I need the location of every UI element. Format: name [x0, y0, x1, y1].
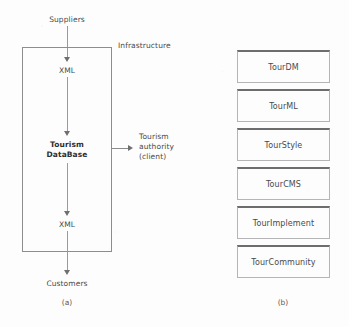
stack-box-tourml[interactable]: TourML [237, 89, 330, 122]
tour-component-stack: TourDM TourML TourStyle TourCMS TourImpl… [237, 50, 330, 284]
flow-line-database-to-client [112, 148, 129, 149]
customers-label: Customers [37, 279, 97, 289]
node-xml-top: XML [47, 66, 87, 76]
flow-line-xml-to-database [67, 77, 68, 133]
arrowhead-down-to-database [64, 131, 70, 136]
stack-box-label: TourCMS [266, 180, 301, 189]
client-label-line2: authority [139, 142, 174, 152]
stack-box-label: TourImplement [253, 219, 314, 228]
suppliers-label: Suppliers [37, 15, 97, 25]
caption-panel-b: (b) [263, 298, 303, 307]
flow-line-xml-to-customers [67, 231, 68, 272]
stack-box-label: TourML [269, 102, 298, 111]
client-label-line3: (client) [139, 152, 166, 162]
node-tourism-database-line2: DataBase [37, 150, 97, 160]
client-label-line1: Tourism [139, 132, 169, 142]
caption-panel-a: (a) [47, 298, 87, 307]
stack-box-label: TourStyle [265, 141, 303, 150]
arrowhead-right-to-client [128, 145, 133, 151]
stack-box-tourcms[interactable]: TourCMS [237, 167, 330, 200]
arrowhead-down-to-customers [64, 270, 70, 275]
stack-box-tourimplement[interactable]: TourImplement [237, 206, 330, 239]
stack-box-tourdm[interactable]: TourDM [237, 50, 330, 83]
arrowhead-down-to-xml-bottom [64, 211, 70, 216]
stack-box-tourcommunity[interactable]: TourCommunity [237, 245, 330, 278]
figure-canvas: Suppliers Infrastructure XML Tourism Dat… [0, 0, 349, 327]
node-tourism-database-line1: Tourism [37, 140, 97, 150]
flow-line-database-to-xml [67, 163, 68, 213]
stack-box-label: TourCommunity [251, 258, 315, 267]
stack-box-tourstyle[interactable]: TourStyle [237, 128, 330, 161]
node-xml-bottom: XML [47, 220, 87, 230]
stack-box-label: TourDM [268, 63, 298, 72]
infrastructure-label: Infrastructure [118, 41, 171, 51]
